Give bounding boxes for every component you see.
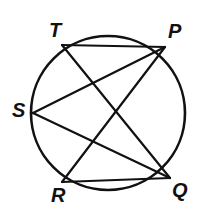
chord-t-p [62,45,165,47]
geometry-figure: T P S R Q [0,0,209,217]
chord-s-p [33,47,165,113]
vertex-label-t: T [49,20,61,40]
chord-r-p [62,47,165,182]
vertex-label-q: Q [172,180,188,200]
vertex-label-s: S [12,100,25,120]
vertex-label-p: P [168,21,181,41]
chord-r-q [62,178,170,182]
vertex-label-r: R [51,185,65,205]
